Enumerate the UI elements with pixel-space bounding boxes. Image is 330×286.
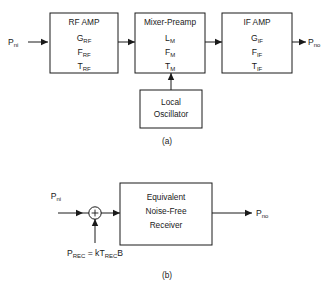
- receiver-noise-block-diagram: RF AMP GRF FRF TRF Mixer-Preamp LM FM TM…: [0, 0, 330, 286]
- panel-b-output-label: Pno: [256, 208, 269, 219]
- panel-a-wire-mixer-to-ifamp: [205, 39, 222, 45]
- block-receiver-line1: Equivalent: [147, 192, 186, 202]
- block-if-amp-title: IF AMP: [243, 17, 271, 27]
- panel-a-input-label: Pni: [8, 37, 18, 48]
- panel-a-input-wire: [28, 39, 48, 45]
- panel-b-wire-junction-to-receiver: [101, 210, 120, 216]
- figure-root: RF AMP GRF FRF TRF Mixer-Preamp LM FM TM…: [0, 0, 330, 286]
- block-mixer-preamp-title: Mixer-Preamp: [144, 17, 196, 27]
- block-receiver-line2: Noise-Free: [145, 206, 186, 216]
- panel-b-output-wire: [212, 210, 252, 216]
- summing-junction[interactable]: [89, 207, 101, 219]
- panel-a-wire-lo-to-mixer: [168, 73, 174, 90]
- block-receiver-line3: Receiver: [150, 220, 183, 230]
- panel-b-noise-source-wire: [92, 219, 98, 243]
- panel-b-caption: (b): [162, 270, 172, 280]
- panel-b-input-wire: [58, 210, 89, 216]
- panel-a-wire-rfamp-to-mixer: [118, 39, 135, 45]
- panel-a-output-label: Pno: [308, 37, 321, 48]
- block-local-oscillator-line2: Oscillator: [154, 109, 189, 119]
- noise-source-equation: PREC = kTRECB: [67, 248, 123, 259]
- block-local-oscillator-line1: Local: [161, 97, 181, 107]
- panel-a-output-wire: [292, 39, 306, 45]
- panel-a-caption: (a): [162, 136, 172, 146]
- block-rf-amp-title: RF AMP: [69, 17, 100, 27]
- panel-b-input-label: Pni: [51, 191, 61, 202]
